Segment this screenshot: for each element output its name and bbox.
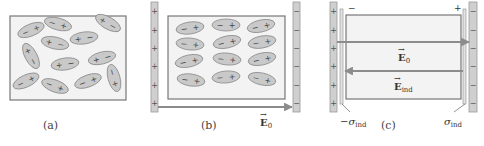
plate-charge-sign: + [330,44,337,53]
dipole-charge-sign: + [74,34,82,44]
induced-negative-layer [340,9,343,104]
plate-charge-sign: − [293,81,300,90]
label-e0-panel-c: →E0 [398,46,410,65]
dielectric-polarization-diagram: −+−++−+−+−+−+−+−−+−+−+−+ ++++++−−−−−−−+−… [0,0,484,146]
plate-charge-sign: − [470,62,477,71]
dipole-charge-sign: + [229,55,236,65]
plate-charge-sign: − [293,26,300,35]
plate-charge-sign: + [151,26,158,35]
panel-a: −+−++−+−+−+−+−+−−+−+−+−+ [10,11,126,100]
label-sigma-left: −σind [340,110,366,129]
positive-plate: ++++++ [151,2,158,112]
plate-charge-sign: + [151,81,158,90]
label-e0-panel-b: →E0 [260,111,272,130]
plate-charge-sign: − [470,81,477,90]
plate-charge-sign: + [330,99,337,108]
dipole-charge-sign: − [180,24,188,34]
plate-charge-sign: − [293,7,300,16]
plate-charge-sign: + [330,26,337,35]
plate-charge-sign: + [151,7,158,16]
label-eind-panel-c: →Eind [394,75,413,94]
plate-charge-sign: − [470,44,477,53]
plate-charge-sign: + [330,62,337,71]
plate-charge-sign: − [293,44,300,53]
dipole-charge-sign: + [192,40,199,50]
plate-charge-sign: + [151,99,158,108]
dipole-charge-sign: + [192,23,200,33]
negative-plate: −−−−−− [469,2,477,112]
caption-a: (a) [43,119,58,132]
induced-positive-layer [463,9,466,104]
negative-plate: −−−−−− [293,2,300,112]
panel-b: ++++++−−−−−−−+−+−+−+−+−+−+−+−+−+−+−+ [151,2,300,112]
dipole-charge-sign: − [86,33,94,43]
dipole-charge-sign: − [181,75,189,85]
plate-charge-sign: + [330,7,337,16]
dipole-charge-sign: + [55,60,63,70]
dipole-charge-sign: − [217,54,224,64]
dipole-charge-sign: − [67,59,75,69]
plate-charge-sign: − [293,99,300,108]
plate-charge-sign: + [151,44,158,53]
caption-c: (c) [381,119,396,132]
plate-charge-sign: + [330,81,337,90]
plate-charge-sign: − [470,26,477,35]
dipole-charge-sign: + [228,72,235,82]
label-sigma-right: σind [444,110,462,129]
positive-plate: ++++++ [330,2,337,112]
plate-charge-sign: − [470,7,477,16]
box-corner-minus: − [348,3,356,13]
dipole-charge-sign: − [180,39,187,49]
dipole-charge-sign: + [229,21,236,30]
box-corner-plus: + [454,3,462,13]
plate-charge-sign: − [293,62,300,71]
dipole-charge-sign: + [193,76,201,86]
plate-charge-sign: − [470,99,477,108]
caption-b: (b) [201,119,217,132]
dipole-molecule: −+ [212,19,240,31]
dipole-charge-sign: − [217,21,224,30]
plate-charge-sign: + [151,62,158,71]
dipole-charge-sign: − [216,73,223,83]
